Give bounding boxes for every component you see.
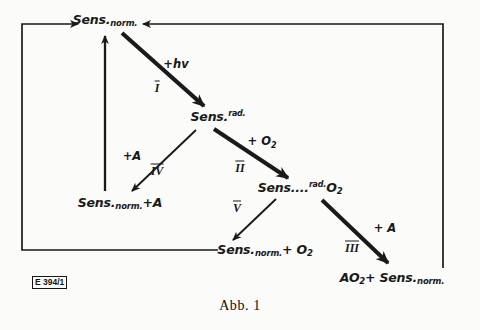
node-sens-norm-plus-o2-tail-sub: 2: [307, 248, 313, 258]
archive-tag: E 394/1: [32, 276, 67, 289]
step-numeral-I-text: I: [155, 81, 160, 94]
node-sens-norm-plus-a-tail: +A: [143, 195, 163, 210]
node-ao2-plus-sens-norm: AO2+ Sens.norm.: [340, 270, 444, 286]
node-sens-norm-plus-a-sub: norm.: [115, 201, 142, 211]
edge-label-a-iii: + A: [374, 221, 397, 235]
node-sens-rad-o2-sup: rad.: [309, 180, 326, 189]
node-sens-norm-plus-o2-base: Sens.: [217, 242, 255, 257]
node-ao2-tail-sub: norm.: [417, 276, 444, 286]
step-numeral-IV: IV: [151, 164, 164, 179]
step-numeral-I: I: [155, 81, 160, 96]
step-numeral-III-text: III: [345, 241, 359, 254]
edge-label-hv-text: +hv: [163, 57, 188, 71]
node-sens-norm-top-sub: norm.: [110, 18, 137, 28]
edge-label-o2-sub: 2: [271, 141, 277, 150]
node-sens-rad-o2-base: Sens....: [258, 180, 309, 195]
step-numeral-II-text: II: [235, 161, 244, 174]
edge-IV: [132, 130, 196, 191]
node-sens-rad-sup: rad.: [228, 109, 245, 118]
node-sens-norm-top-base: Sens.: [73, 12, 111, 27]
node-sens-rad-o2-tail-sub: 2: [337, 186, 343, 196]
figure-caption: Abb. 1: [0, 298, 480, 314]
reaction-scheme-figure: Sens.rad. --> Sens...rad.O2 --> AO2+Sens…: [0, 0, 480, 330]
node-ao2-tail: + Sens.: [365, 270, 417, 285]
edge-label-hv: +hv: [163, 57, 188, 71]
node-sens-norm-plus-o2-sub: norm.: [255, 248, 282, 258]
edge-label-o2: + O2: [248, 134, 277, 149]
edge-label-a-iii-text: + A: [374, 221, 397, 235]
node-sens-rad-o2: Sens....rad.O2: [258, 180, 343, 196]
node-sens-norm-plus-o2: Sens.norm.+ O2: [217, 242, 312, 258]
edge-label-o2-text: + O: [248, 134, 271, 148]
step-numeral-IV-text: IV: [151, 164, 164, 177]
node-sens-norm-top: Sens.norm.: [73, 12, 138, 28]
node-sens-norm-plus-a-base: Sens.: [78, 195, 116, 210]
node-ao2-base: AO: [340, 270, 360, 285]
step-numeral-V: V: [233, 201, 241, 216]
edge-label-a-iv-text: +A: [123, 149, 142, 163]
node-sens-rad-base: Sens.: [191, 109, 229, 124]
node-sens-norm-plus-a: Sens.norm.+A: [78, 195, 163, 211]
edge-label-a-iv: +A: [123, 149, 142, 163]
step-numeral-III: III: [345, 241, 359, 256]
step-numeral-V-text: V: [233, 201, 241, 214]
node-sens-norm-plus-o2-tail: + O: [282, 242, 307, 257]
node-sens-rad: Sens.rad.: [191, 109, 246, 124]
step-numeral-II: II: [235, 161, 244, 176]
node-sens-rad-o2-tail: O: [326, 180, 336, 195]
